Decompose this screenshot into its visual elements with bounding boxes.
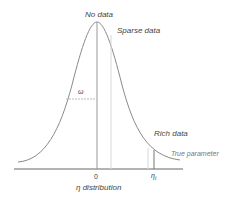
zero-tick-label: 0 xyxy=(94,173,98,180)
no-data-label: No data xyxy=(85,10,113,19)
eta-subscript: t xyxy=(155,175,156,181)
width-label: ω xyxy=(78,88,83,95)
x-axis-label: η distribution xyxy=(76,183,121,192)
true-parameter-label: True parameter xyxy=(171,150,219,157)
rich-data-label: Rich data xyxy=(154,129,188,138)
bell-curve xyxy=(18,22,180,162)
sparse-data-label: Sparse data xyxy=(117,26,160,35)
eta-t-tick-label: ηt xyxy=(151,172,156,181)
